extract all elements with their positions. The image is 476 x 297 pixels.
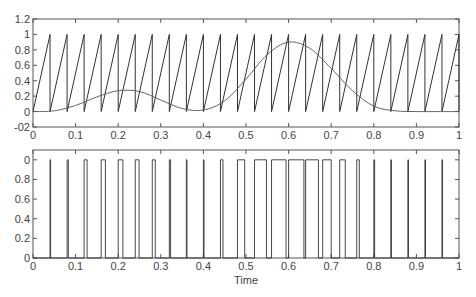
plot-frame [33,150,459,258]
x-tick-label: 0.5 [238,260,253,272]
x-tick-label: 0.9 [409,260,424,272]
x-axis-title: Time [234,274,258,286]
top-plot-axes: 00.10.20.30.40.50.60.70.80.91-0200.20.40… [14,13,462,141]
y-tick-label: 0.8 [15,44,30,56]
y-tick-label: 0.4 [15,213,30,225]
x-tick-label: 0.2 [111,260,126,272]
x-tick-label: 0.1 [68,260,83,272]
y-tick-label: 1 [24,28,30,40]
y-tick-label: 0.6 [15,59,30,71]
x-tick-label: 0.3 [153,260,168,272]
y-tick-label: 0.2 [15,232,30,244]
x-tick-label: 0.7 [324,260,339,272]
y-tick-label: 0.6 [15,193,30,205]
x-tick-label: 0 [30,260,36,272]
pwm-pulse-line [33,160,459,258]
x-tick-label: 0.8 [366,129,381,141]
y-tick-label: 0 [24,252,30,264]
x-tick-label: 0.3 [153,129,168,141]
x-tick-label: 0.6 [281,260,296,272]
y-tick-label: 1.2 [15,13,30,25]
y-tick-label: 0.4 [15,75,30,87]
x-tick-label: 0.5 [238,129,253,141]
x-tick-label: 1 [456,260,462,272]
x-tick-label: 0.8 [366,260,381,272]
pwm-figure: 00.10.20.30.40.50.60.70.80.91-0200.20.40… [0,0,476,297]
bottom-plot-axes: 00.10.20.30.40.50.60.70.80.9100.20.40.60… [15,150,462,272]
x-tick-label: 0.9 [409,129,424,141]
y-tick-label: 0 [24,154,30,166]
x-tick-label: 0.6 [281,129,296,141]
y-tick-label: 0.2 [15,90,30,102]
x-tick-label: 0.7 [324,129,339,141]
sawtooth-line [33,34,459,111]
x-tick-label: 1 [456,129,462,141]
x-tick-label: 0.1 [68,129,83,141]
x-tick-label: 0.2 [111,129,126,141]
x-tick-label: 0.4 [196,129,211,141]
y-tick-label: 0.8 [15,173,30,185]
y-tick-label: -02 [14,121,30,133]
y-tick-label: 0 [24,106,30,118]
x-tick-label: 0 [30,129,36,141]
x-tick-label: 0.4 [196,260,211,272]
